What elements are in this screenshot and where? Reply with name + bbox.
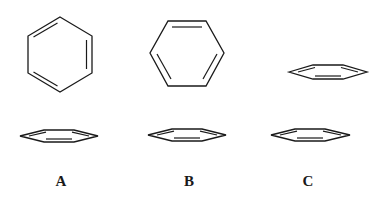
panel-b-top-view-ring <box>150 21 224 86</box>
benzene-orientation-diagram: A B C <box>0 0 386 198</box>
panel-c-upper-side-view-ring <box>289 65 367 79</box>
label-a: A <box>56 173 67 189</box>
panel-b-side-view-ring <box>148 129 226 141</box>
panel-a-side-view-ring <box>20 130 98 142</box>
label-b: B <box>184 173 194 189</box>
panel-c-lower-side-view-ring <box>271 129 350 141</box>
label-c: C <box>303 173 314 189</box>
panel-a-top-view-ring <box>28 17 92 92</box>
